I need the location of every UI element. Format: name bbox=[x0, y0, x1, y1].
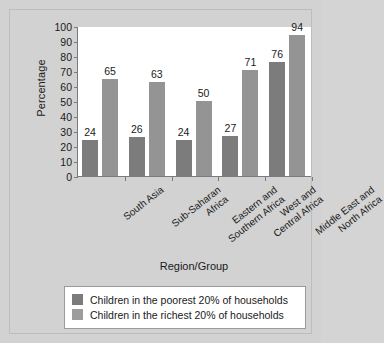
chart-legend: Children in the poorest 20% of household… bbox=[64, 286, 306, 329]
y-axis-tick-label: 70 bbox=[32, 66, 72, 78]
bar-group: 2663 bbox=[125, 27, 172, 176]
bar-poorest: 27 bbox=[222, 136, 238, 177]
legend-swatch-richest bbox=[72, 309, 83, 320]
bar-group: 2450 bbox=[172, 27, 219, 176]
y-axis-tick-label: 80 bbox=[32, 51, 72, 63]
y-axis-tick-label: 10 bbox=[32, 156, 72, 168]
bar-value-label: 76 bbox=[263, 48, 291, 60]
x-axis-category-label: South Asia bbox=[121, 184, 166, 222]
plot-area: 0102030405060708090100246526632450277176… bbox=[77, 27, 311, 177]
x-axis-tick-mark bbox=[218, 177, 219, 181]
bar-value-label: 71 bbox=[236, 56, 264, 68]
chart-outer-frame: Percentage 01020304050607080901002465266… bbox=[9, 9, 312, 334]
bar-value-label: 94 bbox=[283, 21, 311, 33]
bar-value-label: 65 bbox=[96, 65, 124, 77]
bar-richest: 71 bbox=[242, 70, 258, 177]
y-axis-tick-label: 100 bbox=[32, 21, 72, 33]
y-axis-tick-label: 90 bbox=[32, 36, 72, 48]
legend-label-poorest: Children in the poorest 20% of household… bbox=[90, 294, 288, 306]
bar-richest: 94 bbox=[289, 35, 305, 176]
bar-value-label: 27 bbox=[216, 122, 244, 134]
x-axis-tick-mark bbox=[125, 177, 126, 181]
legend-swatch-poorest bbox=[72, 294, 83, 305]
bar-value-label: 50 bbox=[190, 87, 218, 99]
x-axis-title: Region/Group bbox=[77, 260, 311, 272]
bar-group: 7694 bbox=[265, 27, 312, 176]
y-axis-tick-label: 60 bbox=[32, 81, 72, 93]
bar-poorest: 24 bbox=[176, 140, 192, 176]
bar-value-label: 63 bbox=[143, 68, 171, 80]
x-axis-tick-mark bbox=[312, 177, 313, 181]
bar-poorest: 24 bbox=[82, 140, 98, 176]
bar-richest: 50 bbox=[196, 101, 212, 176]
legend-item-richest: Children in the richest 20% of household… bbox=[72, 307, 298, 322]
y-axis-tick-label: 20 bbox=[32, 141, 72, 153]
bar-group: 2465 bbox=[78, 27, 125, 176]
y-axis-tick-label: 50 bbox=[32, 96, 72, 108]
x-axis-tick-mark bbox=[265, 177, 266, 181]
y-axis-tick-mark bbox=[74, 177, 78, 178]
x-axis-category-label: Middle East andNorth Africa bbox=[313, 184, 384, 246]
bar-value-label: 24 bbox=[170, 126, 198, 138]
bar-value-label: 24 bbox=[76, 126, 104, 138]
bar-group: 2771 bbox=[218, 27, 265, 176]
legend-label-richest: Children in the richest 20% of household… bbox=[90, 309, 284, 321]
bar-richest: 63 bbox=[149, 82, 165, 177]
bar-richest: 65 bbox=[102, 79, 118, 177]
y-axis-tick-label: 40 bbox=[32, 111, 72, 123]
bar-value-label: 26 bbox=[123, 123, 151, 135]
y-axis-tick-label: 0 bbox=[32, 171, 72, 183]
bar-poorest: 76 bbox=[269, 62, 285, 176]
x-axis-tick-mark bbox=[172, 177, 173, 181]
y-axis-tick-label: 30 bbox=[32, 126, 72, 138]
legend-item-poorest: Children in the poorest 20% of household… bbox=[72, 292, 298, 307]
bar-poorest: 26 bbox=[129, 137, 145, 176]
